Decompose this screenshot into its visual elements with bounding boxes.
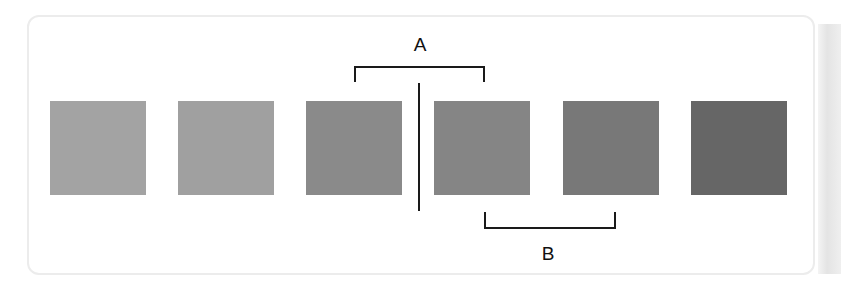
- bracket-a-right-leg: [483, 66, 485, 82]
- gray-swatch-4: [434, 101, 530, 195]
- gray-swatch-5: [563, 101, 659, 195]
- bracket-b-left-leg: [484, 212, 486, 229]
- gray-swatch-6: [691, 101, 787, 195]
- divider-line: [418, 83, 420, 211]
- gray-swatch-1: [50, 101, 146, 195]
- bracket-b-bar: [484, 227, 616, 229]
- gray-swatch-3: [306, 101, 402, 195]
- label-a: A: [414, 35, 427, 54]
- page-shadow-edge: [818, 24, 841, 274]
- label-b: B: [542, 244, 555, 263]
- bracket-a-left-leg: [354, 66, 356, 82]
- bracket-b-right-leg: [614, 212, 616, 229]
- bracket-a-bar: [354, 66, 485, 68]
- gray-swatch-2: [178, 101, 274, 195]
